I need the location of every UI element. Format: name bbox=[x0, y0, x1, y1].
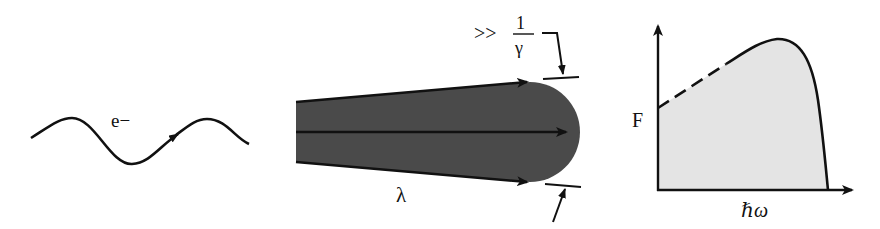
electron-wave-path bbox=[31, 118, 178, 164]
angle-numerator: 1 bbox=[516, 13, 525, 33]
spectrum-fill-area bbox=[658, 39, 828, 190]
electron-trajectory-panel: e− bbox=[31, 110, 249, 164]
wavelength-label: λ bbox=[396, 183, 407, 207]
spectrum-panel: F ℏω bbox=[632, 26, 852, 221]
lower-leader-arrow bbox=[553, 189, 565, 222]
lower-angle-tick bbox=[545, 184, 581, 187]
electron-wave-path-tail bbox=[176, 119, 249, 144]
electron-label: e− bbox=[111, 110, 130, 131]
upper-angle-tick bbox=[543, 77, 579, 79]
x-axis-label: ℏω bbox=[741, 199, 768, 221]
y-axis-label: F bbox=[632, 109, 643, 131]
figure-canvas: e− >> 1 γ λ F ℏω bbox=[0, 0, 880, 229]
angle-relation-label: >> bbox=[474, 22, 497, 44]
radiation-cone-panel: >> 1 γ λ bbox=[296, 13, 581, 222]
upper-leader-arrow bbox=[542, 33, 563, 74]
angle-denominator-gamma: γ bbox=[514, 38, 523, 58]
